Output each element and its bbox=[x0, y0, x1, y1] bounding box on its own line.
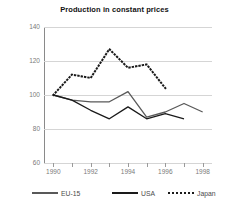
legend-swatch-japan bbox=[168, 188, 194, 198]
series-layer bbox=[44, 27, 212, 163]
legend-swatch-eu-15 bbox=[32, 188, 58, 198]
x-tick-label: 1990 bbox=[38, 168, 68, 175]
legend-item-usa[interactable]: USA bbox=[112, 186, 155, 200]
x-tick-mark bbox=[91, 163, 92, 167]
x-tick-mark bbox=[53, 163, 54, 167]
x-tick-label: 1994 bbox=[113, 168, 143, 175]
y-axis-tick-labels: 1401201008060 bbox=[16, 0, 40, 216]
series-line-usa bbox=[53, 95, 184, 119]
plot-area bbox=[44, 27, 212, 163]
legend-label-eu-15: EU-15 bbox=[61, 190, 80, 197]
x-tick-mark bbox=[128, 163, 129, 167]
chart-legend: EU-15 USA Japan bbox=[0, 186, 229, 206]
chart-container: Production in constant prices 1401201008… bbox=[0, 0, 229, 216]
x-tick-mark bbox=[147, 163, 148, 167]
y-tick-label: 80 bbox=[18, 125, 40, 132]
x-tick-mark bbox=[109, 163, 110, 167]
series-line-eu-15 bbox=[53, 92, 202, 118]
legend-label-japan: Japan bbox=[197, 190, 216, 197]
legend-item-japan[interactable]: Japan bbox=[168, 186, 216, 200]
series-line-japan bbox=[53, 49, 165, 95]
legend-swatch-usa bbox=[112, 188, 138, 198]
legend-label-usa: USA bbox=[141, 190, 155, 197]
x-tick-mark bbox=[165, 163, 166, 167]
x-tick-label: 1998 bbox=[188, 168, 218, 175]
y-tick-label: 100 bbox=[18, 91, 40, 98]
y-tick-label: 140 bbox=[18, 23, 40, 30]
legend-item-eu-15[interactable]: EU-15 bbox=[32, 186, 80, 200]
x-tick-label: 1996 bbox=[150, 168, 180, 175]
x-tick-mark bbox=[72, 163, 73, 167]
x-tick-mark bbox=[184, 163, 185, 167]
y-tick-label: 120 bbox=[18, 57, 40, 64]
x-tick-label: 1992 bbox=[76, 168, 106, 175]
x-tick-mark bbox=[203, 163, 204, 167]
y-tick-label: 60 bbox=[18, 159, 40, 166]
